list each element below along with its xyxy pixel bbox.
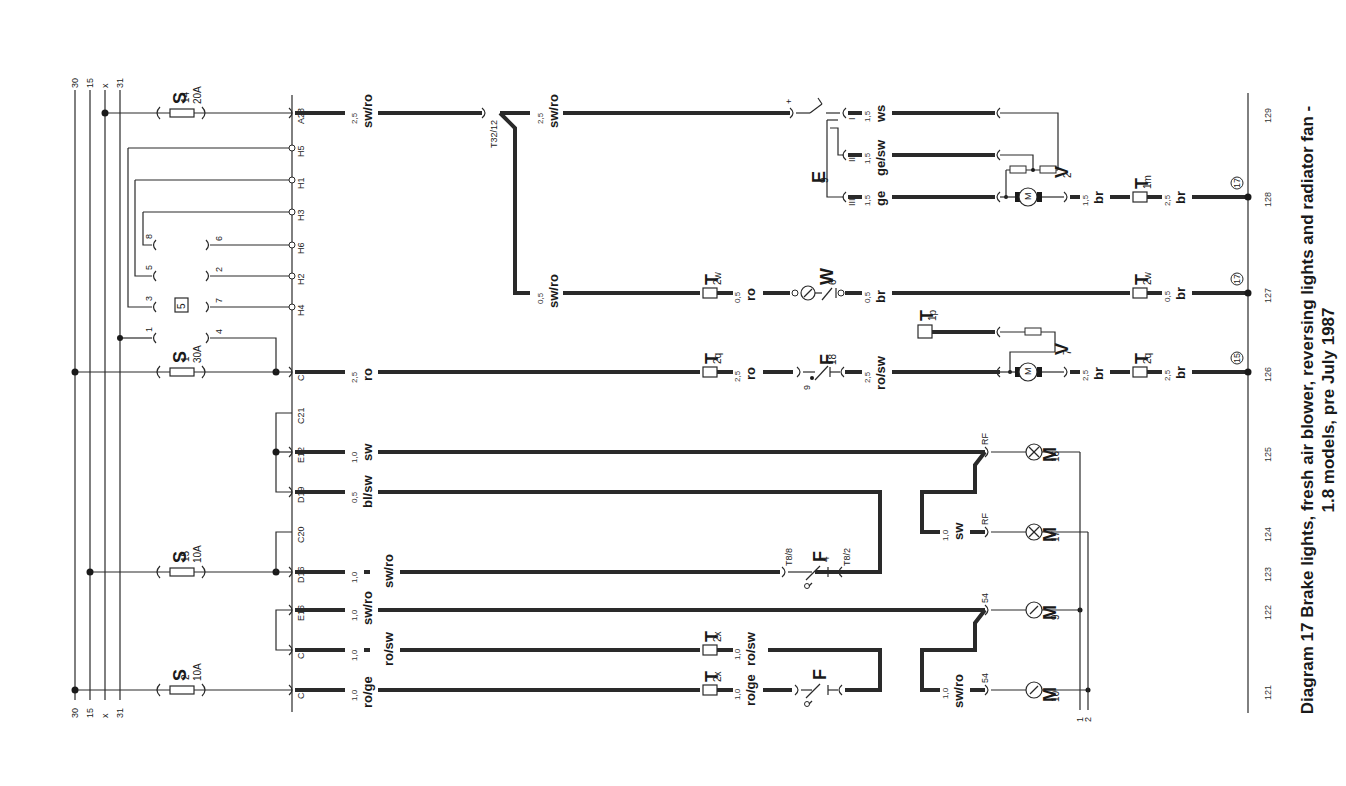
svg-text:3: 3 [144,296,154,301]
svg-text:1,5: 1,5 [863,110,872,122]
svg-text:1,5: 1,5 [1081,194,1090,206]
svg-text:2,5: 2,5 [733,370,742,382]
svg-text:H3: H3 [296,209,306,221]
svg-text:6: 6 [827,279,838,285]
svg-text:125: 125 [1263,447,1273,462]
caption-line-2: 1.8 models, pre July 1987 [1318,106,1339,714]
svg-text:sw: sw [360,443,375,461]
svg-text:2,5: 2,5 [1163,369,1172,381]
connector-t2q-a: T2q 2,5 ro [702,353,793,382]
svg-text:6: 6 [214,236,224,241]
svg-text:C20: C20 [296,526,306,543]
svg-text:bl/sw: bl/sw [360,475,375,508]
svg-text:br: br [1091,367,1106,380]
fuse-s1-body [170,368,194,376]
svg-text:0,5: 0,5 [1163,290,1172,302]
svg-text:A23: A23 [296,108,306,124]
svg-text:ro: ro [360,368,375,381]
wire-e12: 1,0 sw [295,443,985,463]
svg-text:17: 17 [1232,274,1242,284]
svg-text:+: + [784,99,794,104]
svg-text:H4: H4 [296,304,306,316]
relay-5: 5 1 3 5 8 4 7 2 6 [117,148,292,372]
svg-text:1,0: 1,0 [941,529,950,541]
svg-text:9: 9 [1050,614,1061,620]
svg-text:1,5: 1,5 [863,152,872,164]
svg-text:ro: ro [743,288,758,301]
svg-text:2w: 2w [712,271,723,285]
pin-t32-12: T32/12 [489,120,499,148]
bus-31-label-bottom: 31 [115,708,125,718]
connector-t2w-b: T2w 0,5 br [1132,271,1248,302]
earth-bus: 17 17 15 [1231,93,1252,713]
svg-text:10: 10 [1050,690,1061,702]
svg-text:br: br [1091,191,1106,204]
svg-text:0,5: 0,5 [863,291,872,303]
wire-d16: 1,0 sw/ro [295,554,780,588]
connector-t2w-a: T2w 0,5 ro [702,271,790,303]
svg-text:122: 122 [1263,605,1273,620]
svg-text:RF: RF [980,433,990,445]
svg-text:H1: H1 [296,177,306,189]
svg-text:II: II [847,157,857,162]
svg-text:5: 5 [176,303,187,309]
bus-30-label-bottom: 30 [70,708,80,718]
svg-text:M: M [1023,193,1033,201]
svg-text:8: 8 [144,234,154,239]
fuse-s2-rating: 10A [192,663,203,681]
svg-text:2,5: 2,5 [863,371,872,383]
svg-text:ro: ro [743,367,758,380]
switch-f4: T8/8 F4 T8/2 [782,548,880,589]
svg-text:F: F [810,669,830,680]
fuse-s14: S14 20A [102,86,293,119]
fuse-s1-rating: 30A [192,345,203,363]
connector-t1p: T1p [917,309,995,338]
svg-text:15: 15 [180,550,191,562]
svg-text:I: I [847,117,857,120]
svg-text:1m: 1m [1142,175,1153,189]
svg-text:1,0: 1,0 [350,649,359,661]
svg-text:ro/sw: ro/sw [381,631,396,666]
svg-text:2: 2 [214,267,224,272]
svg-text:2,5: 2,5 [1163,194,1172,206]
svg-text:E16: E16 [296,605,306,621]
svg-text:ro/ge: ro/ge [360,676,375,708]
svg-text:9: 9 [819,177,830,183]
svg-text:127: 127 [1263,288,1273,303]
connector-t1m: T1m 2,5 br [1132,175,1248,206]
svg-text:2q: 2q [712,353,723,364]
connector-t2x-b: T2x 1,0 ro/ge [702,671,792,706]
lamp-group: RF 1,0 sw RF 54 1,0 sw/ro 54 M16 M17 M9 [922,433,1093,722]
svg-text:RF: RF [980,513,990,525]
svg-text:ro/ge: ro/ge [743,674,758,706]
bus-15-label-bottom: 15 [85,708,95,718]
fuse-s15-body [170,568,194,576]
switch-f: F [795,669,880,707]
fuse-s14-body [170,109,194,117]
svg-text:D19: D19 [296,486,306,503]
svg-text:br: br [1173,366,1188,379]
svg-text:D16: D16 [296,566,306,583]
svg-text:2: 2 [180,674,191,680]
grid-references: 121 122 123 124 125 126 127 128 129 [1263,108,1273,700]
svg-text:14: 14 [180,91,191,103]
svg-text:2q: 2q [1142,353,1153,364]
svg-text:54: 54 [980,593,990,603]
svg-text:0,5: 0,5 [733,291,742,303]
wire-c1: 1,0 ro/sw [295,631,700,666]
bus-x-label-top: x [100,83,110,88]
svg-text:2x: 2x [712,631,723,642]
caption-line-1: Diagram 17 Brake lights, fresh air blowe… [1297,106,1318,714]
svg-text:1,0: 1,0 [941,687,950,699]
svg-text:1,0: 1,0 [350,451,359,463]
svg-text:ge: ge [873,191,888,206]
wire-e16: 1,0 sw/ro [295,591,985,625]
fuse-s15: S15 10A [87,545,293,578]
svg-text:126: 126 [1263,367,1273,382]
svg-text:1,5: 1,5 [863,194,872,206]
bus-31-label-top: 31 [115,78,125,88]
svg-text:sw/ro: sw/ro [546,274,561,308]
svg-text:5: 5 [144,265,154,270]
svg-text:0,5: 0,5 [536,292,545,304]
svg-text:54: 54 [980,673,990,683]
